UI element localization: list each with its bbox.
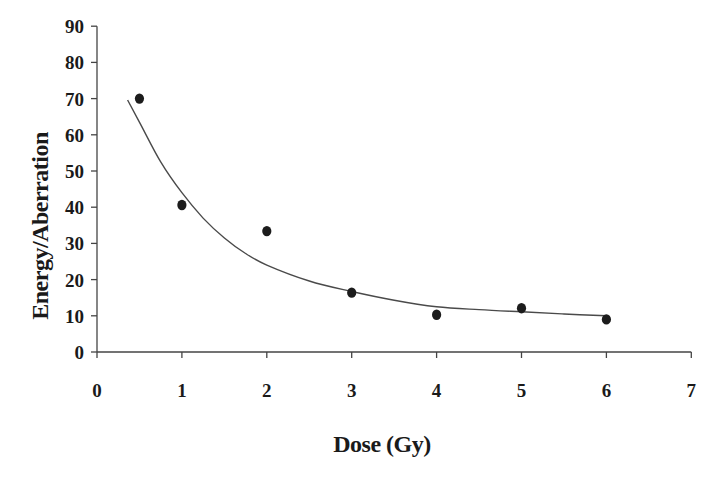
data-point bbox=[135, 93, 144, 103]
y-tick-label: 70 bbox=[65, 89, 84, 110]
y-tick-label: 60 bbox=[65, 125, 84, 146]
x-tick-label: 0 bbox=[92, 380, 102, 401]
x-axis-title: Dose (Gy) bbox=[333, 431, 430, 457]
x-tick-label: 3 bbox=[347, 380, 357, 401]
y-tick-label: 80 bbox=[65, 52, 84, 73]
y-tick-label: 40 bbox=[65, 197, 84, 218]
y-tick-label: 90 bbox=[65, 16, 84, 37]
y-tick-label: 30 bbox=[65, 233, 84, 254]
x-tick-label: 4 bbox=[432, 380, 442, 401]
y-axis: 0102030405060708090 bbox=[65, 16, 97, 363]
y-tick-label: 10 bbox=[65, 306, 84, 327]
x-axis: 01234567 bbox=[92, 352, 696, 401]
fit-curve-path bbox=[128, 100, 607, 316]
data-point bbox=[432, 310, 441, 320]
x-tick-label: 1 bbox=[177, 380, 187, 401]
y-axis-title: Energy/Aberration bbox=[27, 132, 53, 320]
y-tick-label: 0 bbox=[75, 342, 85, 363]
chart: 0102030405060708090 01234567 Dose (Gy) E… bbox=[0, 0, 715, 482]
data-point bbox=[347, 287, 356, 297]
x-tick-label: 5 bbox=[517, 380, 527, 401]
data-point bbox=[177, 200, 186, 210]
y-tick-label: 20 bbox=[65, 270, 84, 291]
x-tick-label: 6 bbox=[602, 380, 612, 401]
y-tick-label: 50 bbox=[65, 161, 84, 182]
data-point bbox=[602, 314, 611, 324]
x-tick-label: 2 bbox=[262, 380, 272, 401]
fitted-curve bbox=[128, 100, 607, 316]
x-tick-label: 7 bbox=[687, 380, 697, 401]
data-point bbox=[262, 226, 271, 236]
data-point bbox=[517, 303, 526, 313]
data-points bbox=[135, 93, 611, 324]
